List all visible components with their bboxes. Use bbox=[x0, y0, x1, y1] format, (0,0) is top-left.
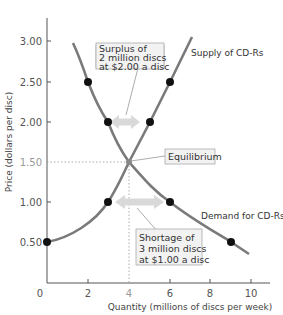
y-tick-label: 1.00 bbox=[20, 197, 42, 208]
x-tick-label: 4 bbox=[126, 288, 132, 299]
shortage-text-line2: 3 million discs bbox=[139, 243, 207, 254]
shortage-leader bbox=[137, 208, 158, 232]
y-tick-label: 1.50 bbox=[20, 157, 42, 168]
y-ticks: 3.00 2.50 2.00 1.50 1.00 0.50 bbox=[20, 36, 51, 248]
shortage-text-line3: at $1.00 a disc bbox=[139, 254, 209, 265]
equilibrium-point bbox=[126, 159, 132, 165]
shortage-arrow bbox=[115, 195, 164, 209]
demand-label: Demand for CD-Rs bbox=[201, 211, 283, 221]
x-tick-label: 2 bbox=[85, 288, 91, 299]
x-axis-title: Quantity (millions of discs per week) bbox=[108, 302, 273, 312]
x-tick-label: 10 bbox=[245, 288, 258, 299]
y-tick-label: 0.50 bbox=[20, 237, 42, 248]
equilibrium-label: Equilibrium bbox=[168, 151, 222, 162]
surplus-arrow bbox=[110, 115, 140, 129]
surplus-text-line3: at $2.00 a disc bbox=[99, 61, 169, 72]
y-tick-label: 2.00 bbox=[20, 117, 42, 128]
supply-demand-chart: 3.00 2.50 2.00 1.50 1.00 0.50 0 2 4 6 8 … bbox=[0, 0, 283, 315]
y-tick-label: 3.00 bbox=[20, 36, 42, 47]
shortage-text-line1: Shortage of bbox=[139, 232, 195, 243]
x-tick-label: 8 bbox=[207, 288, 213, 299]
supply-points bbox=[43, 78, 174, 246]
y-tick-label: 2.50 bbox=[20, 77, 42, 88]
equilibrium-leader bbox=[131, 156, 165, 161]
supply-label: Supply of CD-Rs bbox=[191, 48, 264, 58]
x-tick-label: 6 bbox=[167, 288, 173, 299]
y-axis-title: Price (dollars per disc) bbox=[4, 92, 14, 193]
surplus-leader bbox=[126, 68, 138, 115]
x-ticks: 0 2 4 6 8 10 bbox=[37, 279, 258, 299]
x-tick-label: 0 bbox=[37, 288, 43, 299]
demand-curve bbox=[73, 43, 249, 254]
